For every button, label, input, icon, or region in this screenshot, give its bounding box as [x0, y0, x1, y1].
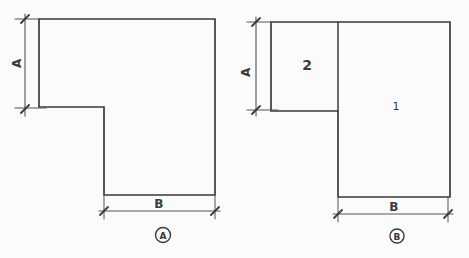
part-label-small-square: 2 [302, 57, 312, 73]
figure-b-caption: B [390, 229, 404, 243]
drawing-sheet: A B A 2 1 [0, 0, 469, 258]
caption-letter: A [160, 231, 167, 241]
figure-a-width-dimension: B [99, 196, 220, 219]
figure-a-height-dimension: A [10, 14, 46, 116]
height-dimension-label: A [10, 58, 24, 68]
part-label-large-rect: 1 [393, 100, 400, 113]
figure-b-height-dimension: A [239, 17, 278, 116]
figure-a-caption: A [156, 228, 171, 243]
figure-a: A B A [10, 14, 220, 243]
width-dimension-label: B [154, 197, 164, 211]
figure-a-l-shape-outline [39, 19, 215, 195]
figure-b-width-dimension: B [333, 198, 453, 222]
technical-drawing-canvas: A B A 2 1 [0, 0, 469, 258]
height-dimension-label: A [239, 67, 253, 77]
caption-letter: B [394, 232, 401, 242]
figure-b-l-shape-outline [271, 22, 450, 197]
width-dimension-label: B [389, 200, 399, 214]
figure-b: 2 1 A B B [239, 17, 453, 243]
